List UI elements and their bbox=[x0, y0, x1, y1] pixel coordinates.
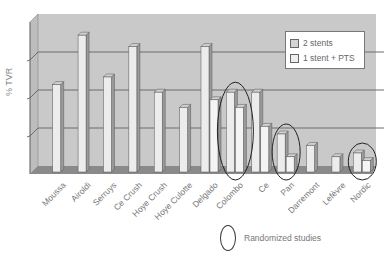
legend-item-2-stents: 2 stents bbox=[290, 38, 333, 48]
ellipse-icon bbox=[220, 225, 236, 251]
randomized-studies-label: Randomized studies bbox=[244, 233, 321, 243]
legend-label: 2 stents bbox=[303, 38, 333, 48]
legend-swatch-icon bbox=[290, 39, 299, 48]
randomized-studies-key: Randomized studies bbox=[220, 225, 321, 251]
legend-swatch-icon bbox=[290, 54, 299, 63]
legend-label: 1 stent + PTS bbox=[303, 53, 355, 63]
legend-item-1-stent-pts: 1 stent + PTS bbox=[290, 53, 355, 63]
y-axis-label: % TVR bbox=[4, 68, 14, 96]
legend: 2 stents 1 stent + PTS bbox=[285, 31, 365, 69]
